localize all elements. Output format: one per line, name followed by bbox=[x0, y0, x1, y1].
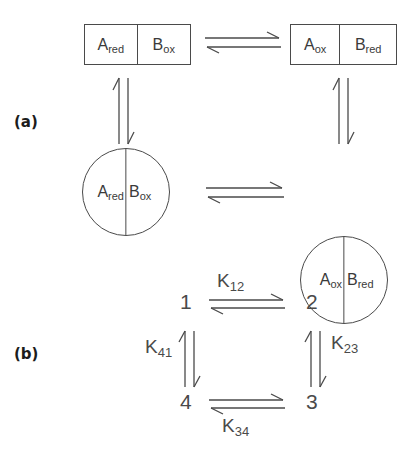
equilibrium-arrow-top-boxes bbox=[203, 29, 283, 57]
state-number-4: 4 bbox=[180, 391, 192, 412]
equilibrium-arrow-right-vertical bbox=[330, 76, 358, 146]
panel-label-a: (a) bbox=[14, 113, 38, 131]
constant-label-k23: K23 bbox=[331, 333, 358, 352]
species-half-a-red-circle: Ared bbox=[83, 149, 126, 235]
constant-label-k41: K41 bbox=[145, 337, 172, 356]
formula-b-red-box: Bred bbox=[355, 37, 382, 53]
formula-a-ox-box: Aox bbox=[304, 37, 326, 53]
cycle-arrow-right-23 bbox=[302, 329, 330, 389]
formula-b-ox-circle: Box bbox=[129, 184, 151, 200]
state-number-3: 3 bbox=[306, 391, 318, 412]
equilibrium-arrow-bottom-circles bbox=[204, 179, 286, 207]
formula-a-ox-circle: Aox bbox=[320, 272, 342, 288]
species-circle-bottom-left: Ared Box bbox=[82, 148, 170, 236]
clipped-top-caption bbox=[66, 0, 366, 7]
species-half-b-ox-circle: Box bbox=[126, 149, 169, 235]
panel-label-b: (b) bbox=[14, 345, 38, 363]
formula-a-red-circle: Ared bbox=[97, 184, 124, 200]
species-half-b-red-circle: Bred bbox=[344, 237, 387, 323]
species-half-b-ox-box: Box bbox=[138, 25, 191, 64]
cycle-arrow-left-41 bbox=[176, 329, 204, 389]
species-box-top-left: Ared Box bbox=[84, 24, 191, 65]
species-half-a-red-box: Ared bbox=[85, 25, 138, 64]
species-half-a-ox-box: Aox bbox=[291, 25, 340, 64]
state-number-2: 2 bbox=[306, 291, 318, 312]
cycle-arrow-top-12 bbox=[207, 293, 287, 319]
formula-b-ox-box: Box bbox=[153, 37, 175, 53]
cycle-arrow-bottom-43 bbox=[207, 393, 287, 419]
formula-b-red-circle: Bred bbox=[347, 272, 374, 288]
species-half-b-red-box: Bred bbox=[340, 25, 396, 64]
formula-a-red-box: Ared bbox=[97, 37, 124, 53]
equilibrium-arrow-left-vertical bbox=[110, 76, 138, 146]
figure-root: (a) Ared Box Aox Bred bbox=[0, 0, 413, 459]
species-box-top-right: Aox Bred bbox=[290, 24, 397, 65]
state-number-1: 1 bbox=[180, 291, 192, 312]
constant-label-k12: K12 bbox=[217, 271, 244, 290]
